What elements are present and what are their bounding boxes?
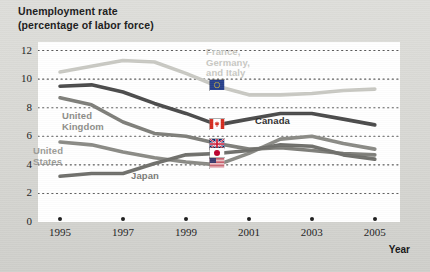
chart-page: Unemployment rate (percentage of labor f… — [0, 0, 430, 272]
x-tick-dot — [184, 217, 188, 221]
x-tick-label: 1999 — [175, 226, 197, 238]
x-axis-title: Year — [389, 244, 410, 255]
x-tick-label: 1997 — [112, 226, 134, 238]
x-tick-dot — [247, 217, 251, 221]
series-label-france-germany-italy: France, Germany, and Italy — [206, 47, 250, 79]
x-tick-label: 1995 — [49, 226, 71, 238]
canada-flag — [210, 119, 225, 130]
series-label-canada: Canada — [255, 116, 290, 127]
x-tick-label: 2005 — [364, 226, 386, 238]
series-label-united-states: United States — [33, 146, 63, 167]
x-tick-dot — [121, 217, 125, 221]
eu-flag — [210, 79, 225, 90]
x-axis-labels: 199519971999200120032005 — [0, 226, 430, 246]
series-label-united-kingdom: United Kingdom — [62, 111, 104, 132]
x-tick-dot — [58, 217, 62, 221]
united-states-flag — [210, 157, 225, 168]
series-label-japan: Japan — [131, 171, 159, 182]
x-tick-label: 2001 — [238, 226, 260, 238]
x-tick-dot — [373, 217, 377, 221]
x-tick-dot — [310, 217, 314, 221]
x-tick-label: 2003 — [301, 226, 323, 238]
